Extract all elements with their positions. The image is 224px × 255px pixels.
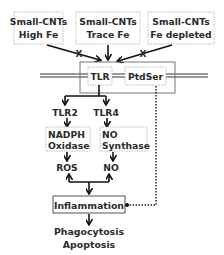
tlr4-label: TLR4 bbox=[93, 107, 119, 118]
inflammation-label: Inflammation bbox=[54, 200, 124, 211]
ptdser-label: PtdSer bbox=[128, 71, 164, 82]
apoptosis-label: Apoptosis bbox=[63, 239, 116, 250]
nadph-label: NADPH bbox=[48, 129, 85, 140]
inflammation-box: Inflammation bbox=[53, 196, 125, 213]
cell-membrane bbox=[40, 74, 208, 77]
input-box-high-fe: Small-CNTs High Fe bbox=[10, 12, 68, 44]
input-trace-fe-line1: Small-CNTs bbox=[79, 16, 137, 27]
tlr2-label: TLR2 bbox=[52, 107, 78, 118]
input-box-fe-depleted: Small-CNTs Fe depleted bbox=[148, 12, 214, 44]
input-trace-fe-line2: Trace Fe bbox=[87, 29, 130, 40]
synthase-label: Synthase bbox=[102, 140, 150, 151]
no-label: NO bbox=[102, 129, 118, 140]
input-fe-depleted-line2: Fe depleted bbox=[150, 29, 211, 40]
cnt-signaling-pathway-diagram: Small-CNTs High Fe Small-CNTs Trace Fe S… bbox=[0, 0, 224, 255]
tlr-label: TLR bbox=[90, 71, 109, 82]
no-product-label: NO bbox=[103, 162, 119, 173]
ros-label: ROS bbox=[56, 162, 78, 173]
input-high-fe-line2: High Fe bbox=[19, 29, 58, 40]
nadph-oxidase-box: NADPH Oxidase bbox=[46, 127, 90, 151]
no-synthase-box: NO Synthase bbox=[100, 127, 150, 151]
input-high-fe-line1: Small-CNTs bbox=[10, 16, 68, 27]
arrow-high-fe-to-tlr bbox=[47, 45, 100, 60]
phagocytosis-label: Phagocytosis bbox=[54, 226, 124, 237]
input-box-trace-fe: Small-CNTs Trace Fe bbox=[76, 12, 140, 44]
dotted-line-endpoint-icon bbox=[125, 203, 129, 207]
blocked-x-icon: X bbox=[76, 49, 83, 59]
input-fe-depleted-line1: Small-CNTs bbox=[152, 16, 210, 27]
ptdser-receptor: PtdSer bbox=[125, 67, 166, 85]
oxidase-label: Oxidase bbox=[48, 140, 89, 151]
blocked-x-icon: X bbox=[140, 49, 147, 59]
tlr-receptor: TLR bbox=[88, 67, 112, 85]
